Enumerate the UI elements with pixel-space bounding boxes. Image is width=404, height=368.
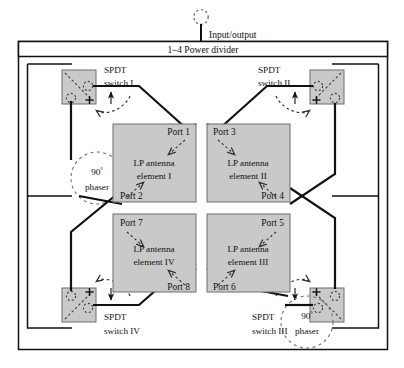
- port-6-label: Port 6: [213, 282, 236, 292]
- line-switch-II-to-port-4: [290, 103, 335, 204]
- line-switch-II-to-port-3: [218, 86, 313, 130]
- figure-canvas: Input/output 1–4 Power divider SPDT swit…: [0, 0, 404, 368]
- switch-II-label-line1: SPDT: [258, 65, 281, 75]
- port-2-label: Port 2: [120, 191, 143, 201]
- switch-II-label-line2: switch II: [258, 78, 290, 88]
- line-switch-I-to-port-1: [93, 86, 188, 130]
- power-divider-label: 1–4 Power divider: [168, 44, 240, 55]
- phaser-lower-right-word: phaser: [295, 326, 319, 336]
- antenna-IV-label-line1: LP antenna: [133, 244, 174, 254]
- port-1-label: Port 1: [167, 127, 190, 137]
- switch-III-label-line2: switch III: [252, 326, 287, 336]
- port-8-label: Port 8: [167, 282, 190, 292]
- antenna-III-label-line2: element III: [228, 257, 269, 267]
- input-output-group: [194, 10, 208, 41]
- phaser-ul-deg-unit: °: [100, 166, 103, 173]
- switch-I-label-line2: switch I: [104, 78, 133, 88]
- switch-II-control-arrow: [276, 96, 309, 113]
- switch-IV-label-line1: SPDT: [104, 312, 127, 322]
- phaser-lr-deg-unit: °: [310, 310, 313, 317]
- switch-I-label-line1: SPDT: [104, 65, 127, 75]
- phaser-upper-left-word: phaser: [85, 182, 109, 192]
- input-output-label: Input/output: [209, 29, 257, 40]
- antenna-III-label-line1: LP antenna: [227, 244, 268, 254]
- phaser-upper-left-degree: 90°: [91, 166, 103, 178]
- input-port-symbol-icon: [194, 10, 208, 24]
- port-3-label: Port 3: [213, 127, 236, 137]
- port-7-label: Port 7: [120, 218, 143, 228]
- antenna-II-label-line1: LP antenna: [227, 158, 268, 168]
- switch-III-label-line1: SPDT: [252, 312, 275, 322]
- diagram-svg: Input/output 1–4 Power divider SPDT swit…: [0, 0, 404, 368]
- port-4-label: Port 4: [261, 191, 284, 201]
- port-5-label: Port 5: [261, 218, 284, 228]
- antenna-I-label-line2: element I: [137, 171, 171, 181]
- antenna-IV-label-line2: element IV: [133, 257, 174, 267]
- switch-I-control-arrow: [97, 96, 130, 113]
- phaser-lr-deg-value: 90: [301, 311, 311, 321]
- switch-internals-group: [65, 73, 341, 319]
- antenna-I-label-line1: LP antenna: [133, 158, 174, 168]
- line-switch-III-to-port-5: [290, 188, 335, 289]
- transmission-lines: [71, 86, 335, 305]
- antenna-II-label-line2: element II: [229, 171, 267, 181]
- switch-IV-label-line2: switch IV: [104, 326, 140, 336]
- phaser-ul-deg-value: 90: [91, 167, 101, 177]
